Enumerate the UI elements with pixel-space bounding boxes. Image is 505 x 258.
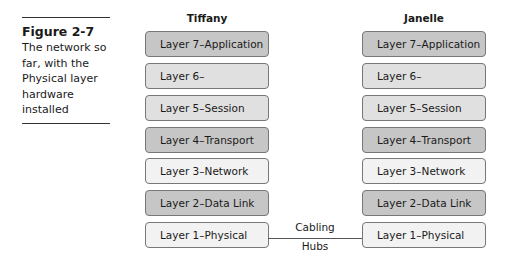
janelle-layer-7: Layer 7–Application xyxy=(362,31,486,57)
link-label-hubs: Hubs xyxy=(290,240,340,252)
figure-caption: Figure 2-7 The network so far, with the … xyxy=(22,17,110,124)
janelle-layer-6: Layer 6–Presentation xyxy=(362,63,486,89)
tiffany-layer-6: Layer 6–Presentation xyxy=(145,63,269,89)
host-title-janelle: Janelle xyxy=(362,12,486,24)
janelle-layer-3: Layer 3–Network xyxy=(362,158,486,184)
janelle-layer-2: Layer 2–Data Link xyxy=(362,190,486,216)
tiffany-layer-2: Layer 2–Data Link xyxy=(145,190,269,216)
janelle-layer-5: Layer 5–Session xyxy=(362,95,486,121)
tiffany-layer-1: Layer 1–Physical xyxy=(145,222,269,248)
tiffany-layer-7: Layer 7–Application xyxy=(145,31,269,57)
janelle-layer-1: Layer 1–Physical xyxy=(362,222,486,248)
physical-link-line xyxy=(268,238,362,239)
tiffany-layer-5: Layer 5–Session xyxy=(145,95,269,121)
figure-label: Figure 2-7 xyxy=(22,23,110,40)
tiffany-layer-3: Layer 3–Network xyxy=(145,158,269,184)
tiffany-layer-4: Layer 4–Transport xyxy=(145,127,269,153)
janelle-layer-4: Layer 4–Transport xyxy=(362,127,486,153)
host-title-tiffany: Tiffany xyxy=(145,12,269,24)
figure-description: The network so far, with the Physical la… xyxy=(22,40,110,118)
link-label-cabling: Cabling xyxy=(290,221,340,233)
